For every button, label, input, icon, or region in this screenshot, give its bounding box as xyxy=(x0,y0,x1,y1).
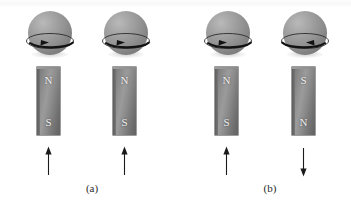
spin-orbit-icon xyxy=(259,8,351,60)
magnet-top-pole-label: N xyxy=(215,75,238,86)
spin-magnet-unit: SN xyxy=(259,0,351,205)
bar-magnet: SN xyxy=(292,67,315,135)
figure-stage: NSNS(a)NSSN(b) xyxy=(0,0,351,205)
field-direction-arrow-icon xyxy=(80,145,172,178)
magnet-top-pole-label: N xyxy=(37,75,60,86)
field-direction-arrow-icon xyxy=(259,145,351,178)
spin-magnet-unit: NS xyxy=(80,0,172,205)
panel-caption: (b) xyxy=(240,182,300,194)
panel-caption: (a) xyxy=(62,182,122,194)
magnet-top-pole-label: S xyxy=(292,75,315,86)
magnet-top-pole-label: N xyxy=(113,75,136,86)
spin-direction-arc xyxy=(106,43,149,48)
spin-orbit-icon xyxy=(80,8,172,60)
magnet-bottom-pole-label: N xyxy=(292,117,315,128)
magnet-bottom-pole-label: S xyxy=(113,117,136,128)
spin-arrowhead-icon xyxy=(117,40,126,46)
spin-arrowhead-icon xyxy=(219,40,228,46)
spin-arrowhead-icon xyxy=(306,40,315,46)
bar-magnet: NS xyxy=(215,67,238,135)
spin-direction-arc xyxy=(30,43,73,48)
magnet-bottom-pole-label: S xyxy=(37,117,60,128)
spin-direction-arc xyxy=(282,43,325,48)
bar-magnet: NS xyxy=(113,67,136,135)
spin-arrowhead-icon xyxy=(41,40,50,46)
spinning-sphere-group xyxy=(259,8,351,60)
spin-direction-arc xyxy=(208,43,251,48)
bar-magnet: NS xyxy=(37,67,60,135)
magnet-bottom-pole-label: S xyxy=(215,117,238,128)
spinning-sphere-group xyxy=(80,8,172,60)
